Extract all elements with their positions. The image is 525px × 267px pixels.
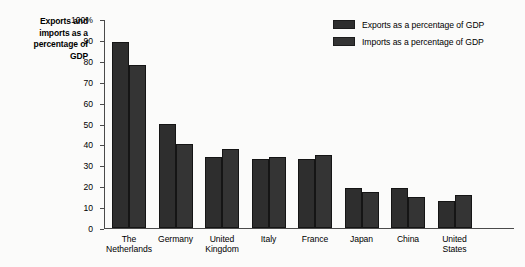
bar-exports[interactable]: [205, 157, 222, 228]
y-axis-tick-label: 70: [83, 78, 93, 88]
bar-imports[interactable]: [269, 157, 286, 228]
y-axis-title-line: imports as a: [4, 28, 88, 40]
y-axis-tick-label: 60: [83, 99, 93, 109]
y-axis-tick-mark: [100, 41, 104, 42]
x-axis-line: [104, 228, 514, 229]
bar-imports[interactable]: [408, 197, 425, 228]
y-axis-tick-mark: [100, 187, 104, 188]
y-axis-tick-label: 100%: [71, 15, 93, 25]
x-axis-label-line: United: [409, 234, 501, 244]
y-axis-line: [104, 20, 105, 229]
plot-area: 100%9080706050403020100: [104, 20, 514, 229]
bar-imports[interactable]: [362, 192, 379, 228]
bar-exports[interactable]: [159, 124, 176, 229]
y-axis-title-line: percentage of: [4, 39, 88, 51]
y-axis-tick-mark: [100, 62, 104, 63]
bar-imports[interactable]: [455, 195, 472, 228]
bar-exports[interactable]: [391, 188, 408, 228]
y-axis-tick-label: 10: [83, 203, 93, 213]
y-axis-tick-label: 80: [83, 57, 93, 67]
y-axis-tick-mark: [100, 20, 104, 21]
y-axis-tick-label: 50: [83, 120, 93, 130]
bar-exports[interactable]: [252, 159, 269, 228]
bar-exports[interactable]: [112, 42, 129, 228]
bar-exports[interactable]: [438, 201, 455, 228]
x-axis-label-line: Kingdom: [176, 244, 268, 254]
bar-imports[interactable]: [176, 144, 193, 228]
chart-page: Exports andimports as apercentage ofGDP …: [0, 0, 525, 267]
bar-imports[interactable]: [222, 149, 239, 228]
y-axis-tick-label: 30: [83, 161, 93, 171]
y-axis-tick-mark: [100, 166, 104, 167]
bar-imports[interactable]: [315, 155, 332, 228]
x-axis-label-line: States: [409, 244, 501, 254]
bar-exports[interactable]: [298, 159, 315, 228]
x-axis-label: UnitedStates: [409, 234, 501, 255]
y-axis-tick-mark: [100, 104, 104, 105]
y-axis-tick-mark: [100, 229, 104, 230]
bar-imports[interactable]: [129, 65, 146, 228]
y-axis-tick-mark: [100, 145, 104, 146]
y-axis-tick-mark: [100, 83, 104, 84]
y-axis-tick-label: 20: [83, 182, 93, 192]
y-axis-tick-mark: [100, 208, 104, 209]
y-axis-tick-label: 90: [83, 36, 93, 46]
bar-exports[interactable]: [345, 188, 362, 228]
y-axis-tick-label: 40: [83, 140, 93, 150]
y-axis-title-line: GDP: [4, 51, 88, 63]
y-axis-tick-mark: [100, 125, 104, 126]
x-axis-label-line: Netherlands: [83, 244, 175, 254]
y-axis-tick-label: 0: [88, 224, 93, 234]
